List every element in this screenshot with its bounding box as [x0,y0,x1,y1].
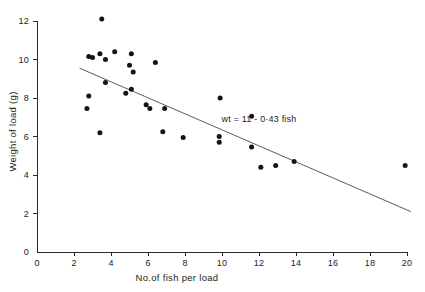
data-point [217,140,222,145]
scatter-plot-figure: 024681012 02468101214161820 wt = 11 - 0·… [0,0,425,292]
x-tick-label: 16 [328,258,338,268]
data-point [112,49,117,54]
data-point [153,60,158,65]
data-point [103,57,108,62]
equation-label: wt = 11 - 0·43 fish [221,114,297,124]
data-point [160,129,165,134]
data-point [249,145,254,150]
y-tick-label: 4 [24,170,29,180]
y-tick-label: 10 [19,55,29,65]
data-point [99,17,104,22]
plot-background [0,0,425,292]
data-point [147,106,152,111]
y-tick-label: 12 [19,16,29,26]
x-tick-label: 4 [108,258,113,268]
y-axis-title: Weight of load (g) [7,91,18,171]
data-point [84,106,89,111]
data-point [403,163,408,168]
y-tick-label: 0 [24,247,29,257]
data-point [258,165,263,170]
data-point [97,130,102,135]
data-point [129,87,134,92]
data-point [162,106,167,111]
data-point [97,51,102,56]
data-point [218,96,223,101]
data-point [131,70,136,75]
y-tick-label: 2 [24,209,29,219]
data-point [127,63,132,68]
x-tick-label: 6 [145,258,150,268]
data-point [103,80,108,85]
x-tick-label: 2 [71,258,76,268]
plot-canvas: 024681012 02468101214161820 wt = 11 - 0·… [0,0,425,292]
y-tick-label: 8 [24,93,29,103]
data-point [123,91,128,96]
x-tick-label: 10 [217,258,227,268]
data-point [86,94,91,99]
x-axis-title: No.of fish per load [136,272,219,283]
data-point [273,163,278,168]
data-point [144,102,149,107]
x-tick-label: 20 [402,258,412,268]
data-point [90,55,95,60]
x-tick-label: 0 [34,258,39,268]
equation-annotation: wt = 11 - 0·43 fish [221,114,297,124]
x-tick-label: 14 [291,258,301,268]
data-point [217,134,222,139]
x-tick-label: 8 [182,258,187,268]
data-point [129,51,134,56]
x-tick-label: 12 [254,258,264,268]
data-point [292,159,297,164]
data-point [181,135,186,140]
x-tick-label: 18 [365,258,375,268]
y-tick-label: 6 [24,132,29,142]
